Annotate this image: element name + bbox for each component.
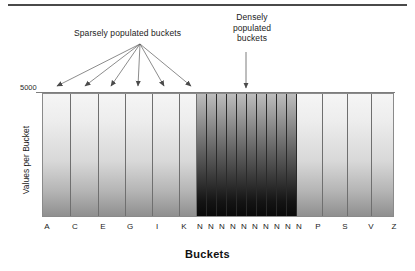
sparse-pointer-arrow bbox=[140, 44, 191, 86]
annotation-sparsely-populated: Sparsely populated buckets bbox=[74, 28, 181, 39]
x-tick-label: V bbox=[368, 222, 373, 231]
x-tick-label: N bbox=[230, 222, 236, 231]
bucket-bar bbox=[99, 94, 126, 216]
x-axis-title: Buckets bbox=[0, 248, 415, 260]
x-tick-label: S bbox=[342, 222, 347, 231]
x-tick-label: Z bbox=[392, 222, 397, 231]
sparse-pointer-arrow bbox=[140, 44, 164, 86]
sparse-pointer-arrow bbox=[57, 44, 140, 86]
x-tick-label: K bbox=[181, 222, 186, 231]
x-tick-label: A bbox=[44, 222, 49, 231]
y-axis-title: Values per Bucket bbox=[21, 110, 31, 210]
bucket-bar bbox=[207, 94, 217, 216]
x-tick-label: P bbox=[315, 222, 320, 231]
bucket-bar bbox=[217, 94, 227, 216]
x-tick-label: N bbox=[263, 222, 269, 231]
x-tick-label: C bbox=[72, 222, 78, 231]
bucket-bar bbox=[323, 94, 348, 216]
x-tick-label: N bbox=[252, 222, 258, 231]
sparse-pointer-arrow bbox=[138, 44, 140, 86]
x-tick-label: N bbox=[285, 222, 291, 231]
bucket-bar bbox=[277, 94, 287, 216]
bucket-bar bbox=[126, 94, 153, 216]
bucket-bar bbox=[297, 94, 323, 216]
top-rule-divider bbox=[8, 4, 407, 6]
x-tick-label: N bbox=[241, 222, 247, 231]
x-tick-label: N bbox=[208, 222, 214, 231]
x-tick-label: N bbox=[219, 222, 225, 231]
bucket-bar bbox=[247, 94, 257, 216]
x-tick-label: G bbox=[127, 222, 133, 231]
figure-container: Sparsely populated buckets Densely popul… bbox=[0, 0, 415, 271]
bucket-bar bbox=[372, 94, 394, 216]
bucket-bar bbox=[348, 94, 372, 216]
bucket-bar bbox=[257, 94, 267, 216]
x-tick-label: N bbox=[197, 222, 203, 231]
bucket-bar bbox=[71, 94, 99, 216]
bucket-bar bbox=[197, 94, 207, 216]
x-tick-label: E bbox=[100, 222, 105, 231]
x-tick-label: N bbox=[296, 222, 302, 231]
bucket-bar bbox=[43, 94, 71, 216]
y-axis-max-label: 5000 bbox=[20, 83, 37, 92]
sparse-pointer-arrow bbox=[85, 44, 140, 86]
bucket-bar bbox=[237, 94, 247, 216]
plot-area bbox=[42, 93, 394, 217]
sparse-arrow-group bbox=[57, 44, 191, 86]
bucket-bar bbox=[287, 94, 297, 216]
bucket-bar bbox=[153, 94, 180, 216]
bucket-bar bbox=[227, 94, 237, 216]
x-tick-label: N bbox=[274, 222, 280, 231]
bucket-bar bbox=[267, 94, 277, 216]
bucket-bar bbox=[180, 94, 197, 216]
sparse-pointer-arrow bbox=[111, 44, 140, 86]
x-tick-label: I bbox=[156, 222, 158, 231]
annotation-densely-populated: Densely populated buckets bbox=[222, 12, 282, 44]
